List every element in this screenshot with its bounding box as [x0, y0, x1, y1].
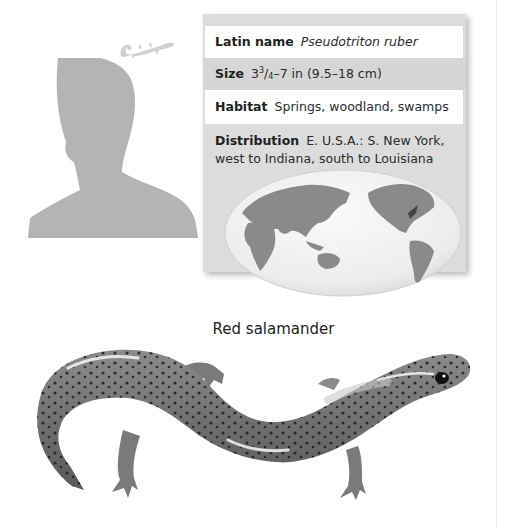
distribution-value-line1: E. U.S.A.: S. New York,	[306, 133, 444, 148]
common-name-text: Red salamander	[213, 320, 335, 338]
latin-name-row: Latin name Pseudotriton ruber	[205, 26, 463, 58]
size-label: Size	[215, 66, 244, 82]
size-frac-num: 3	[259, 66, 264, 75]
page-margin-rule	[496, 0, 497, 528]
latin-name-label: Latin name	[215, 34, 294, 50]
size-value: 33/4–7 in (9.5–18 cm)	[251, 63, 382, 85]
species-profile-page: Latin name Pseudotriton ruber Size 33/4–…	[0, 0, 507, 528]
habitat-label: Habitat	[215, 99, 268, 115]
distribution-row: DistributionE. U.S.A.: S. New York, west…	[203, 124, 466, 168]
species-common-name: Red salamander	[0, 320, 507, 338]
red-salamander-illustration	[28, 340, 476, 510]
human-silhouette-scale-icon	[28, 58, 198, 238]
habitat-row: Habitat Springs, woodland, swamps	[205, 90, 463, 124]
size-whole: 3	[251, 66, 259, 81]
world-map-icon	[222, 163, 462, 298]
distribution-label: Distribution	[215, 133, 299, 148]
latin-name-value: Pseudotriton ruber	[301, 34, 418, 50]
habitat-value: Springs, woodland, swamps	[275, 99, 449, 115]
size-rest: –7 in (9.5–18 cm)	[273, 66, 381, 81]
salamander-scale-icon	[117, 38, 177, 60]
size-row: Size 33/4–7 in (9.5–18 cm)	[203, 58, 466, 90]
